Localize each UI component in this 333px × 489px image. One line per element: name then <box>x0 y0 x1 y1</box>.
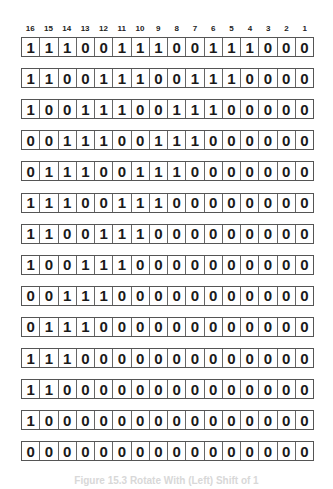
bit-cell: 0 <box>295 318 313 336</box>
bit-cell: 0 <box>204 225 222 243</box>
register-row: 1110000000000000 <box>21 348 314 368</box>
bit-cell: 0 <box>258 131 276 149</box>
bit-cell: 0 <box>94 162 112 180</box>
bit-cell: 1 <box>112 38 130 56</box>
bit-cell: 0 <box>204 287 222 305</box>
bit-cell: 1 <box>22 69 39 87</box>
bit-position-label: 11 <box>113 24 131 33</box>
bit-cell: 0 <box>222 349 240 367</box>
bit-cell: 1 <box>39 69 57 87</box>
bit-cell: 0 <box>149 100 167 118</box>
bit-cell: 0 <box>295 162 313 180</box>
bit-cell: 0 <box>222 287 240 305</box>
bit-cell: 1 <box>94 256 112 274</box>
bit-cell: 1 <box>131 69 149 87</box>
bit-cell: 1 <box>22 194 39 212</box>
bit-cell: 0 <box>222 380 240 398</box>
bit-cell: 0 <box>58 225 76 243</box>
register-row: 0000000000000000 <box>21 441 314 461</box>
bit-cell: 0 <box>94 194 112 212</box>
bit-cell: 1 <box>131 194 149 212</box>
bit-cell: 1 <box>149 38 167 56</box>
bit-cell: 1 <box>131 225 149 243</box>
bit-cell: 1 <box>131 162 149 180</box>
bit-cell: 0 <box>149 411 167 429</box>
bit-cell: 0 <box>131 380 149 398</box>
bit-cell: 0 <box>204 256 222 274</box>
bit-cell: 1 <box>58 287 76 305</box>
bit-position-label: 1 <box>296 24 314 33</box>
bit-cell: 0 <box>204 380 222 398</box>
bit-cell: 0 <box>204 411 222 429</box>
register-row: 1100111000000000 <box>21 224 314 244</box>
bit-position-label: 16 <box>21 24 39 33</box>
bit-cell: 0 <box>240 380 258 398</box>
bit-cell: 0 <box>149 256 167 274</box>
bit-cell: 0 <box>185 256 203 274</box>
bit-cell: 0 <box>277 194 295 212</box>
bit-position-label: 7 <box>186 24 204 33</box>
register-row: 1110011100111000 <box>21 37 314 57</box>
bit-cell: 0 <box>295 69 313 87</box>
bit-cell: 0 <box>94 442 112 460</box>
bit-cell: 1 <box>39 318 57 336</box>
bit-cell: 0 <box>204 131 222 149</box>
bit-cell: 0 <box>22 131 39 149</box>
bit-cell: 0 <box>94 349 112 367</box>
bit-cell: 0 <box>58 69 76 87</box>
bit-cell: 0 <box>277 349 295 367</box>
bit-cell: 0 <box>149 287 167 305</box>
bit-cell: 1 <box>76 131 94 149</box>
bit-cell: 0 <box>94 318 112 336</box>
bit-position-label: 15 <box>39 24 57 33</box>
bit-cell: 0 <box>295 442 313 460</box>
bit-cell: 0 <box>204 349 222 367</box>
bit-cell: 0 <box>295 256 313 274</box>
bit-cell: 0 <box>277 131 295 149</box>
bit-cell: 0 <box>258 442 276 460</box>
bit-cell: 0 <box>167 380 185 398</box>
bit-cell: 0 <box>222 225 240 243</box>
bit-cell: 1 <box>94 287 112 305</box>
bit-cell: 1 <box>58 194 76 212</box>
bit-cell: 1 <box>58 162 76 180</box>
bit-cell: 1 <box>22 225 39 243</box>
bit-cell: 0 <box>222 162 240 180</box>
bit-cell: 0 <box>112 411 130 429</box>
bit-cell: 0 <box>58 411 76 429</box>
bit-cell: 1 <box>185 131 203 149</box>
bit-cell: 0 <box>22 162 39 180</box>
bit-cell: 0 <box>112 442 130 460</box>
bit-cell: 0 <box>58 100 76 118</box>
bit-cell: 0 <box>112 287 130 305</box>
register-row: 1001110000000000 <box>21 255 314 275</box>
bit-cell: 1 <box>112 100 130 118</box>
bit-cell: 0 <box>39 100 57 118</box>
bit-cell: 0 <box>131 442 149 460</box>
bit-cell: 0 <box>277 162 295 180</box>
bit-cell: 1 <box>112 256 130 274</box>
bit-cell: 0 <box>240 256 258 274</box>
bit-position-label: 4 <box>241 24 259 33</box>
bit-cell: 1 <box>149 162 167 180</box>
bit-cell: 0 <box>94 411 112 429</box>
bit-cell: 0 <box>258 318 276 336</box>
bit-position-label: 13 <box>76 24 94 33</box>
bit-cell: 1 <box>22 349 39 367</box>
bit-cell: 0 <box>222 256 240 274</box>
bit-cell: 1 <box>94 131 112 149</box>
bit-cell: 1 <box>222 69 240 87</box>
bit-cell: 1 <box>76 318 94 336</box>
bit-cell: 0 <box>76 442 94 460</box>
bit-cell: 0 <box>149 318 167 336</box>
bit-cell: 1 <box>58 318 76 336</box>
bit-cell: 0 <box>258 194 276 212</box>
bit-cell: 0 <box>185 318 203 336</box>
bit-cell: 0 <box>112 131 130 149</box>
bit-position-label: 5 <box>222 24 240 33</box>
bit-cell: 1 <box>76 162 94 180</box>
bit-cell: 0 <box>277 380 295 398</box>
bit-cell: 0 <box>277 318 295 336</box>
bit-cell: 1 <box>167 162 185 180</box>
bit-cell: 0 <box>185 349 203 367</box>
